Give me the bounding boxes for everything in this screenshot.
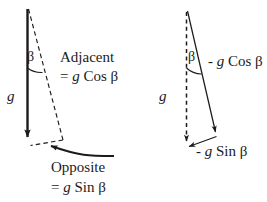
physics-figure: g β Adjacent = g Cos β Opposite = g Sin …: [0, 0, 267, 202]
right-angle-beta-label: β: [188, 50, 195, 64]
left-hypotenuse-dashed: [29, 9, 64, 140]
right-sin-component-label: - g Sin β: [196, 144, 247, 159]
figure-drawing: [0, 0, 267, 202]
left-opposite-equals: =: [51, 179, 59, 195]
right-cos-beta: β: [255, 53, 263, 69]
right-cos-function: Cos: [228, 53, 251, 69]
left-opposite-pointer-arrow: [51, 146, 114, 156]
left-opposite-value: = g Sin β: [51, 180, 106, 195]
right-sin-sign: -: [196, 143, 201, 159]
left-angle-arc: [28, 68, 43, 73]
right-gravity-label: g: [159, 89, 167, 104]
left-gravity-label: g: [7, 89, 15, 104]
left-adjacent-cos: Cos: [83, 68, 106, 84]
left-opposite-beta: β: [98, 179, 106, 195]
right-angle-arc: [187, 68, 202, 74]
left-adjacent-g: g: [72, 68, 80, 84]
left-angle-beta-label: β: [27, 50, 34, 64]
left-opposite-dashed: [31, 140, 64, 146]
right-sin-function: Sin: [216, 143, 236, 159]
right-cos-sign: -: [208, 53, 213, 69]
right-cos-component-label: - g Cos β: [208, 54, 263, 69]
left-adjacent-label: Adjacent: [60, 50, 114, 65]
left-opposite-g: g: [63, 179, 71, 195]
right-diagram-group: [187, 11, 217, 147]
left-adjacent-equals: =: [60, 68, 68, 84]
left-opposite-label: Opposite: [51, 160, 105, 175]
left-opposite-sin: Sin: [74, 179, 94, 195]
right-cos-g: g: [217, 53, 225, 69]
right-sin-beta: β: [240, 143, 248, 159]
right-sin-g: g: [205, 143, 213, 159]
left-adjacent-beta: β: [111, 68, 119, 84]
left-adjacent-value: = g Cos β: [60, 69, 118, 84]
